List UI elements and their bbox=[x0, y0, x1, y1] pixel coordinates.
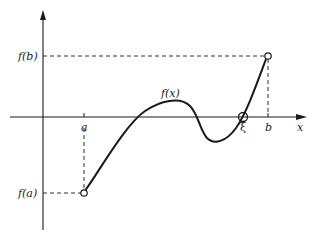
label-xi: ξ bbox=[240, 121, 246, 134]
point-fa-marker bbox=[81, 190, 87, 196]
label-a: a bbox=[81, 121, 88, 134]
function-curve bbox=[86, 59, 267, 190]
x-axis bbox=[10, 114, 307, 120]
y-axis-arrow-icon bbox=[40, 10, 46, 20]
label-x-axis: x bbox=[297, 121, 304, 134]
point-fb-marker bbox=[265, 53, 271, 59]
guide-lines bbox=[43, 56, 268, 193]
label-fx: f(x) bbox=[160, 87, 180, 100]
x-axis-arrow-icon bbox=[296, 114, 307, 120]
label-b: b bbox=[265, 121, 272, 134]
y-axis bbox=[40, 10, 46, 230]
label-fa: f(a) bbox=[17, 187, 37, 200]
ivt-diagram: f(b) f(a) a ξ b x f(x) bbox=[0, 0, 314, 236]
label-fb: f(b) bbox=[17, 50, 38, 63]
